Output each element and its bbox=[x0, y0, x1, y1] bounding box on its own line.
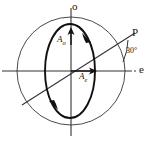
vector-label-a-o: Ao bbox=[57, 35, 66, 46]
ellipse-direction-arrow-bottom bbox=[49, 100, 58, 110]
tilted-axis-line bbox=[22, 33, 135, 105]
axis-label-o: o bbox=[72, 1, 78, 12]
point-label-p: P bbox=[132, 27, 138, 38]
optic-axis-figure: o e P 30° Ao Ae bbox=[0, 0, 151, 142]
angle-label: 30° bbox=[126, 47, 137, 55]
axis-label-e: e bbox=[139, 64, 144, 75]
vector-label-a-o-subscript: o bbox=[63, 39, 66, 46]
vector-label-a-e: Ae bbox=[79, 72, 87, 83]
figure-canvas bbox=[0, 0, 151, 142]
vector-label-a-e-subscript: e bbox=[85, 76, 88, 83]
